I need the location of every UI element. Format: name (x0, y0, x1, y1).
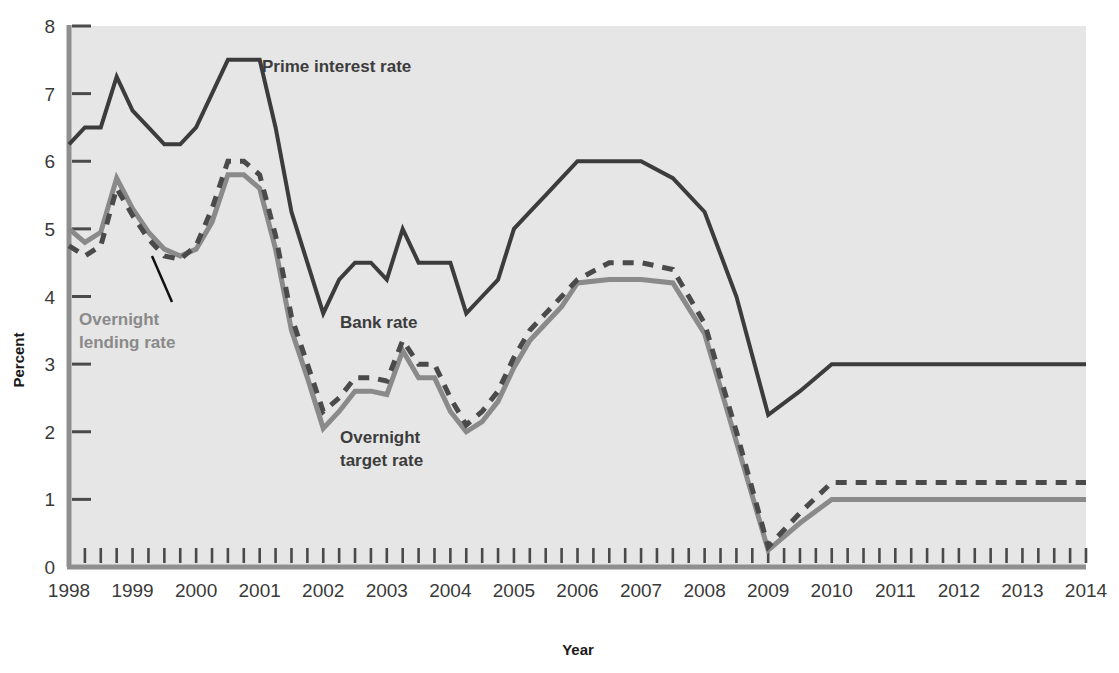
annotation-label: target rate (340, 451, 423, 470)
annotation-label: lending rate (79, 333, 175, 352)
x-tick-label: 2006 (556, 580, 598, 601)
plot-area-background (69, 26, 1086, 567)
x-tick-label: 2013 (1001, 580, 1043, 601)
x-tick-label: 1999 (111, 580, 153, 601)
y-tick-label: 0 (44, 557, 55, 578)
y-tick-label: 6 (44, 151, 55, 172)
y-tick-label: 1 (44, 489, 55, 510)
y-tick-label: 8 (44, 16, 55, 37)
x-tick-label: 2004 (429, 580, 472, 601)
x-tick-label: 2003 (366, 580, 408, 601)
x-tick-label: 1998 (48, 580, 90, 601)
x-tick-label: 2008 (683, 580, 725, 601)
x-tick-label: 2005 (493, 580, 535, 601)
y-tick-label: 2 (44, 422, 55, 443)
y-axis-tick-labels: 012345678 (44, 16, 55, 578)
x-tick-label: 2002 (302, 580, 344, 601)
y-tick-label: 5 (44, 219, 55, 240)
y-tick-label: 3 (44, 354, 55, 375)
annotation-label: Overnight (340, 428, 421, 447)
interest-rate-line-chart: 012345678 199819992000200120022003200420… (0, 0, 1119, 673)
x-tick-label: 2007 (620, 580, 662, 601)
x-tick-label: 2011 (875, 580, 916, 601)
x-tick-label: 2001 (239, 580, 281, 601)
x-axis-tick-labels: 1998199920002001200220032004200520062007… (48, 580, 1108, 601)
x-tick-label: 2014 (1065, 580, 1108, 601)
annotation-label: Prime interest rate (262, 57, 411, 76)
annotation-label: Overnight (79, 310, 160, 329)
x-tick-label: 2009 (747, 580, 789, 601)
chart-page: 012345678 199819992000200120022003200420… (0, 0, 1119, 673)
y-tick-label: 4 (44, 287, 55, 308)
y-tick-label: 7 (44, 84, 55, 105)
x-tick-label: 2012 (938, 580, 980, 601)
y-axis-title: Percent (10, 332, 27, 387)
annotation-label: Bank rate (340, 313, 417, 332)
x-tick-label: 2000 (175, 580, 217, 601)
x-tick-label: 2010 (811, 580, 853, 601)
x-axis-title: Year (562, 641, 594, 658)
